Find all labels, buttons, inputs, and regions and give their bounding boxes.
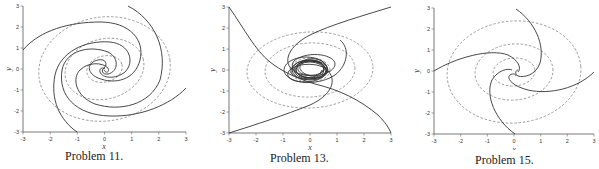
phase-portrait-problem-15: -3-2-10123 3210-1-2-3 x y [400, 0, 599, 150]
svg-text:3: 3 [389, 137, 392, 143]
svg-text:0: 0 [16, 66, 19, 72]
svg-text:-3: -3 [14, 129, 19, 135]
svg-text:-2: -2 [220, 109, 225, 115]
phase-portrait-problem-11: -3-2-10123 3210-1-2-3 x y [0, 0, 200, 150]
svg-text:-3: -3 [21, 136, 26, 142]
y-axis-label: y [412, 69, 421, 74]
svg-text:1: 1 [335, 137, 338, 143]
svg-text:0: 0 [512, 138, 515, 144]
trajectories [23, 6, 186, 132]
svg-text:-3: -3 [432, 138, 437, 144]
trajectories [434, 9, 594, 134]
svg-text:-2: -2 [458, 138, 463, 144]
level-curves [245, 29, 375, 111]
level-curves [443, 15, 585, 128]
svg-text:3: 3 [427, 5, 430, 11]
svg-text:2: 2 [222, 25, 225, 31]
svg-text:0: 0 [427, 68, 430, 74]
svg-text:-1: -1 [75, 136, 80, 142]
svg-text:-1: -1 [220, 88, 225, 94]
svg-text:-1: -1 [14, 87, 19, 93]
svg-text:-3: -3 [220, 130, 225, 136]
y-axis-label: y [4, 67, 13, 72]
svg-text:2: 2 [16, 24, 19, 30]
x-axis-label: x [511, 145, 516, 150]
svg-text:-1: -1 [485, 138, 490, 144]
svg-text:-2: -2 [254, 137, 259, 143]
svg-text:-2: -2 [48, 136, 53, 142]
svg-text:1: 1 [427, 47, 430, 53]
svg-text:2: 2 [157, 136, 160, 142]
svg-text:-2: -2 [14, 108, 19, 114]
svg-text:1: 1 [16, 45, 19, 51]
svg-text:0: 0 [222, 67, 225, 73]
axes: -3-2-10123 3210-1-2-3 [220, 4, 392, 143]
svg-text:1: 1 [222, 46, 225, 52]
caption-problem-13: Problem 13. [270, 151, 329, 166]
svg-text:-1: -1 [281, 137, 286, 143]
x-axis-label: x [307, 143, 312, 150]
svg-text:3: 3 [16, 3, 19, 9]
caption-problem-15: Problem 15. [475, 153, 534, 168]
svg-text:2: 2 [427, 26, 430, 32]
svg-text:3: 3 [184, 136, 187, 142]
svg-text:2: 2 [362, 137, 365, 143]
svg-text:2: 2 [566, 138, 569, 144]
trajectories [229, 7, 391, 133]
caption-problem-11: Problem 11. [65, 149, 123, 164]
svg-text:3: 3 [222, 4, 225, 10]
svg-text:-3: -3 [425, 131, 430, 137]
svg-text:3: 3 [592, 138, 595, 144]
svg-text:1: 1 [130, 136, 133, 142]
svg-text:-3: -3 [227, 137, 232, 143]
y-axis-label: y [208, 68, 217, 73]
svg-text:1: 1 [539, 138, 542, 144]
svg-text:-2: -2 [425, 110, 430, 116]
svg-text:-1: -1 [425, 89, 430, 95]
phase-portrait-problem-13: -3-2-10123 3210-1-2-3 x y [200, 0, 400, 150]
